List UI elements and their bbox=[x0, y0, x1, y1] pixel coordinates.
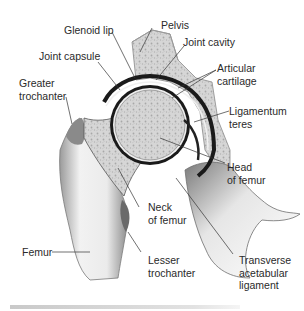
femoral-head bbox=[110, 85, 190, 165]
label-lesser-trochanter: Lesser trochanter bbox=[148, 254, 195, 279]
label-articular-cartilage: Articular cartilage bbox=[217, 62, 257, 87]
label-joint-cavity: Joint cavity bbox=[183, 36, 235, 49]
label-joint-capsule: Joint capsule bbox=[39, 50, 100, 63]
label-transverse-acetabular-ligament: Transverse acetabular ligament bbox=[239, 254, 291, 292]
label-head-of-femur: Head of femur bbox=[227, 161, 266, 186]
label-greater-trochanter: Greater trochanter bbox=[19, 77, 66, 102]
label-glenoid-lip: Glenoid lip bbox=[64, 24, 114, 37]
bottom-divider bbox=[10, 305, 240, 309]
label-femur: Femur bbox=[22, 246, 52, 259]
label-ligamentum-teres: Ligamentum teres bbox=[229, 105, 287, 130]
label-neck-of-femur: Neck of femur bbox=[148, 201, 187, 226]
hip-joint-diagram: Glenoid lip Pelvis Joint capsule Joint c… bbox=[0, 0, 304, 311]
label-pelvis: Pelvis bbox=[161, 19, 189, 32]
